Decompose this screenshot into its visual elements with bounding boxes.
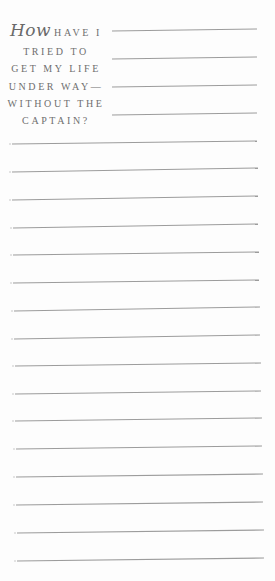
line-start-dot	[10, 254, 11, 255]
header-writing-line-2[interactable]	[112, 57, 257, 59]
line-start-dot	[12, 365, 13, 366]
writing-line-15[interactable]	[17, 530, 264, 533]
writing-line-7[interactable]	[14, 307, 260, 311]
writing-line-16[interactable]	[17, 558, 264, 561]
line-start-dot	[9, 171, 10, 172]
line-start-dot	[11, 338, 12, 339]
writing-line-6[interactable]	[13, 280, 259, 283]
line-start-dot	[13, 448, 14, 449]
writing-line-13[interactable]	[16, 474, 263, 477]
writing-line-10[interactable]	[15, 391, 261, 394]
line-start-dot	[10, 227, 11, 228]
header-writing-line-1[interactable]	[112, 29, 257, 31]
writing-lines[interactable]	[0, 0, 275, 581]
line-start-dot	[14, 560, 15, 561]
writing-line-4[interactable]	[13, 224, 258, 228]
line-start-dot	[10, 282, 11, 283]
writing-line-5[interactable]	[13, 252, 259, 255]
writing-line-11[interactable]	[15, 418, 262, 421]
line-start-dot	[14, 532, 15, 533]
writing-line-1[interactable]	[12, 141, 257, 144]
line-start-dot	[9, 199, 10, 200]
line-start-dot	[11, 310, 12, 311]
writing-line-8[interactable]	[14, 335, 260, 339]
header-writing-lines[interactable]	[112, 29, 257, 115]
header-writing-line-4[interactable]	[112, 113, 257, 115]
journal-page: HowHAVE I TRIED TO GET MY LIFE UNDER WAY…	[0, 0, 275, 581]
full-writing-lines[interactable]	[9, 141, 264, 562]
writing-line-3[interactable]	[12, 196, 258, 200]
line-start-dot	[9, 143, 10, 144]
writing-line-9[interactable]	[15, 363, 261, 366]
header-writing-line-3[interactable]	[112, 85, 257, 87]
line-start-dot	[12, 393, 13, 394]
writing-line-2[interactable]	[12, 168, 258, 172]
writing-line-14[interactable]	[16, 502, 263, 505]
line-start-dot	[13, 476, 14, 477]
line-start-dot	[13, 504, 14, 505]
line-start-dot	[12, 420, 13, 421]
writing-line-12[interactable]	[16, 446, 262, 449]
